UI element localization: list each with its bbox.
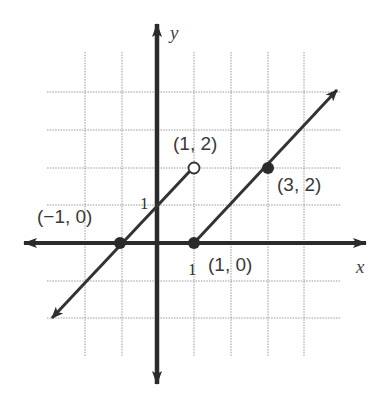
x-tick-1: 1 (188, 261, 197, 278)
label-point-1-2: (1, 2) (173, 134, 217, 153)
point-open-1-2 (189, 163, 200, 174)
y-tick-1: 1 (140, 195, 149, 212)
grid (47, 52, 341, 357)
label-point-3-2: (3, 2) (277, 175, 321, 194)
point-1-0 (188, 237, 200, 249)
x-axis-label: x (356, 257, 364, 276)
point-3-2 (262, 162, 274, 174)
label-point-1-0: (1, 0) (208, 255, 252, 274)
label-point-neg1-0: (−1, 0) (37, 207, 92, 226)
graph-canvas (0, 0, 386, 395)
y-axis-label: y (170, 23, 178, 42)
point-neg1-0 (114, 237, 126, 249)
